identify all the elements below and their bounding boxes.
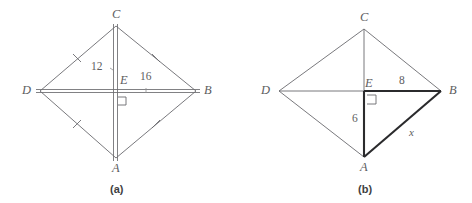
- rhombus-outline-a: [40, 26, 196, 158]
- vertex-label-b-a: B: [204, 84, 212, 97]
- figure-b-drawing: [236, 0, 472, 203]
- right-angle-mark-b: [367, 95, 376, 104]
- vertex-label-a-a: A: [112, 162, 120, 175]
- vertex-label-c-b: C: [360, 11, 368, 24]
- rhombus-outline-b: [279, 29, 441, 157]
- vertex-label-d-b: D: [261, 84, 270, 97]
- tick-mark-dc-a: [73, 54, 81, 62]
- leader-tick-12-a: [110, 68, 113, 70]
- vertex-label-b-b: B: [449, 84, 457, 97]
- tick-mark-ab-a: [152, 120, 160, 128]
- vertex-label-e-b: E: [365, 77, 373, 90]
- segment-ab-b: [364, 91, 441, 157]
- geometry-figure-sheet: C D B A E 12 16 (a): [0, 0, 472, 203]
- vertex-label-c-a: C: [112, 8, 120, 21]
- measure-label-ea-b: 6: [352, 113, 358, 125]
- measure-label-eb-a: 16: [140, 71, 152, 83]
- tick-mark-cb-a: [152, 54, 160, 62]
- vertex-label-e-a: E: [120, 74, 128, 87]
- figure-panel-b: C D B A E 8 6 x (b): [236, 0, 472, 203]
- vertex-label-d-a: D: [22, 84, 31, 97]
- figure-caption-a: (a): [110, 184, 123, 195]
- figure-panel-a: C D B A E 12 16 (a): [0, 0, 236, 203]
- measure-label-ce-a: 12: [91, 61, 103, 73]
- measure-label-eb-b: 8: [399, 75, 405, 87]
- vertex-label-a-b: A: [360, 161, 368, 174]
- measure-label-ab-b: x: [409, 127, 414, 138]
- figure-caption-b: (b): [358, 184, 372, 195]
- right-angle-mark-a: [118, 97, 126, 105]
